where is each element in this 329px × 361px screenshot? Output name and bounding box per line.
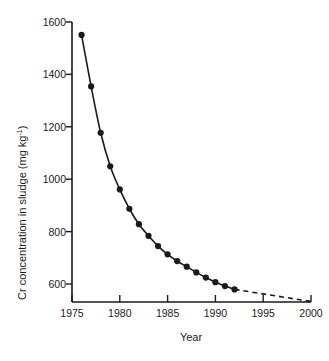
x-tick-label-1995: 1995 [252,307,276,319]
y-tick-label-1600: 1600 [43,16,67,28]
chart-svg: Cr concentration in sludge (mg kg-1) 160… [0,0,329,361]
svg-text:Cr concentration in sludge (mg: Cr concentration in sludge (mg kg-1) [16,126,28,300]
y-tick-label-1400: 1400 [43,68,67,80]
x-tick-label-1975: 1975 [60,307,84,319]
y-tick-label-800: 800 [48,226,66,238]
y-tick-label-1000: 1000 [43,173,67,185]
data-point [78,32,84,38]
y-axis-title-suffix: ) [16,126,28,130]
x-tick-label-1985: 1985 [156,307,180,319]
data-point [107,163,113,169]
y-axis-ticks [66,22,72,284]
data-point [126,206,132,212]
x-tick-label-2000: 2000 [299,307,323,319]
x-tick-label-1980: 1980 [108,307,132,319]
x-axis-title: Year [180,331,203,343]
chart-figure: Cr concentration in sludge (mg kg-1) 160… [0,0,329,361]
data-point [136,221,142,227]
y-axis-title-text: Cr concentration in sludge (mg kg [16,136,28,300]
y-tick-label-600: 600 [48,278,66,290]
data-point [165,251,171,257]
y-axis-title: Cr concentration in sludge (mg kg-1) [16,126,28,300]
data-point [203,274,209,280]
x-tick-label-1990: 1990 [204,307,228,319]
data-point [184,264,190,270]
data-point [88,83,94,89]
data-point [212,279,218,285]
x-axis-ticks [72,295,311,302]
data-point [193,269,199,275]
data-point [222,283,228,289]
data-point [174,258,180,264]
plot-area [78,32,311,302]
data-point [155,243,161,249]
y-tick-label-1200: 1200 [43,121,67,133]
series-line-extrapolated [235,289,311,301]
data-point [117,186,123,192]
data-point [145,233,151,239]
series-line-measured [82,35,235,290]
data-point [98,130,104,136]
